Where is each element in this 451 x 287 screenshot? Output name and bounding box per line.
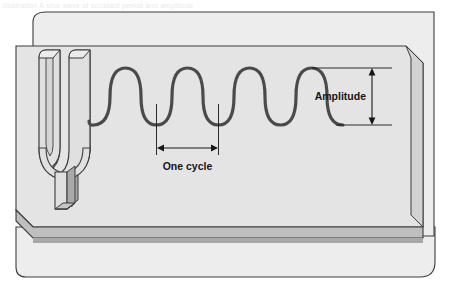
front-panel-ledge-shadow <box>33 238 423 243</box>
tuning-fork-wave-illustration: One cycle Amplitude <box>0 0 451 287</box>
amplitude-label: Amplitude <box>315 90 366 102</box>
figure-root: Illustration A sine wave of constant per… <box>0 0 451 287</box>
fork-left-tine-inner <box>46 56 53 156</box>
one-cycle-label: One cycle <box>163 160 213 172</box>
figure-caption-faint: Illustration A sine wave of constant per… <box>0 0 451 11</box>
